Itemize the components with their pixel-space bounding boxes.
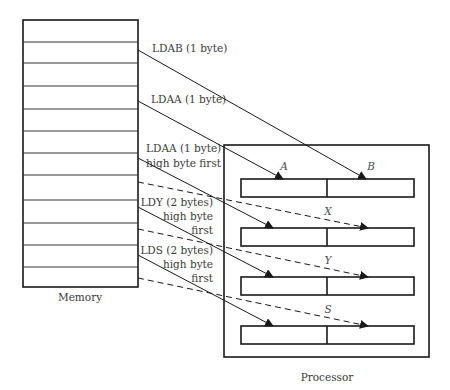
lds-label-line3: first — [191, 272, 213, 284]
ldy-label-line3: first — [191, 224, 213, 236]
load-arrows — [138, 50, 368, 326]
register-x: X — [241, 205, 414, 246]
memory-load-diagram: Memory Processor A B X Y S — [0, 0, 450, 390]
ldy-label-line1: LDY (2 bytes) — [141, 196, 213, 208]
register-a-label: A — [279, 160, 288, 172]
ldy-label-line2: high byte — [163, 210, 213, 222]
register-x-label: X — [323, 205, 332, 217]
lds-label-line1: LDS (2 bytes) — [140, 244, 213, 256]
register-b-label: B — [366, 160, 375, 172]
instruction-labels: LDAB (1 byte) LDAA (1 byte) LDAA (1 byte… — [140, 42, 227, 284]
ldab-label: LDAB (1 byte) — [152, 42, 227, 54]
processor-caption: Processor — [301, 371, 355, 383]
memory-caption: Memory — [58, 291, 102, 303]
register-y-label: Y — [325, 254, 333, 266]
ldx-label-line1: LDAA (1 byte) — [146, 142, 221, 154]
ldaa-label: LDAA (1 byte) — [151, 93, 226, 105]
lds-label-line2: high byte — [163, 258, 213, 270]
register-ab: A B — [241, 160, 414, 197]
register-y: Y — [241, 254, 414, 295]
processor-block: Processor A B X Y S — [224, 145, 429, 383]
register-s-label: S — [324, 303, 331, 315]
ldx-label-line2: high byte first — [146, 157, 222, 169]
memory-block: Memory — [23, 20, 138, 303]
lds-low-byte-arrow — [138, 278, 368, 326]
register-s: S — [241, 303, 414, 344]
